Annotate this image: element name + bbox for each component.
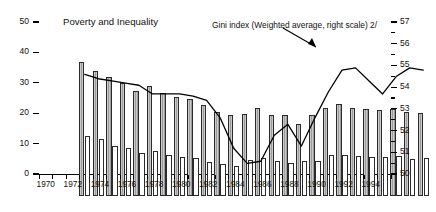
right-tick-label-51: 51 (400, 147, 426, 156)
right-tick-53 (391, 108, 397, 109)
annotation-arrow-icon (282, 27, 328, 53)
x-tick-label-1982: 1982 (193, 180, 223, 189)
right-tick-label-54: 54 (400, 82, 426, 91)
right-minor-tick-51.5 (391, 141, 395, 142)
x-tick-label-1976: 1976 (112, 180, 142, 189)
page-title: Poverty and Inequality (63, 16, 158, 27)
x-tick-label-1994: 1994 (356, 180, 386, 189)
left-tick-10 (33, 143, 39, 144)
right-tick-54 (391, 87, 397, 88)
x-tick-label-1980: 1980 (166, 180, 196, 189)
right-tick-50 (391, 173, 397, 174)
right-minor-tick-52.5 (391, 119, 395, 120)
left-tick-label-20: 20 (5, 108, 29, 117)
x-tick-label-1970: 1970 (31, 180, 61, 189)
right-minor-tick-55.5 (391, 54, 395, 55)
left-tick-label-0: 0 (5, 169, 29, 178)
x-tick-label-1984: 1984 (220, 180, 250, 189)
x-tick-label-1988: 1988 (274, 180, 304, 189)
right-tick-56 (391, 43, 397, 44)
right-tick-51 (391, 152, 397, 153)
left-tick-label-40: 40 (5, 47, 29, 56)
left-tick-label-10: 10 (5, 139, 29, 148)
left-tick-label-30: 30 (5, 78, 29, 87)
right-tick-52 (391, 130, 397, 131)
left-tick-30 (33, 82, 39, 83)
right-tick-label-55: 55 (400, 60, 426, 69)
left-tick-40 (33, 52, 39, 53)
left-tick-label-50: 50 (5, 17, 29, 26)
x-tick-label-1972: 1972 (58, 180, 88, 189)
x-tick-label-1990: 1990 (302, 180, 332, 189)
right-minor-tick-54.5 (391, 76, 395, 77)
right-tick-label-52: 52 (400, 126, 426, 135)
plot-area (39, 22, 391, 174)
x-tick-label-1986: 1986 (247, 180, 277, 189)
x-tick-label-1992: 1992 (329, 180, 359, 189)
right-minor-tick-53.5 (391, 97, 395, 98)
gini-line-series (78, 44, 430, 196)
right-tick-label-57: 57 (400, 17, 426, 26)
right-tick-label-53: 53 (400, 104, 426, 113)
x-tick-label-1978: 1978 (139, 180, 169, 189)
right-tick-55 (391, 65, 397, 66)
right-minor-tick-50.5 (391, 163, 395, 164)
bottom-tick-26 (391, 175, 392, 179)
right-tick-label-50: 50 (400, 169, 426, 178)
left-tick-20 (33, 113, 39, 114)
right-minor-tick-56.5 (391, 32, 395, 33)
x-tick-label-1974: 1974 (85, 180, 115, 189)
right-tick-label-56: 56 (400, 39, 426, 48)
chart-figure: 0102030405050515253545556571970197219741… (0, 0, 436, 212)
left-tick-50 (33, 21, 39, 22)
right-tick-57 (391, 21, 397, 22)
